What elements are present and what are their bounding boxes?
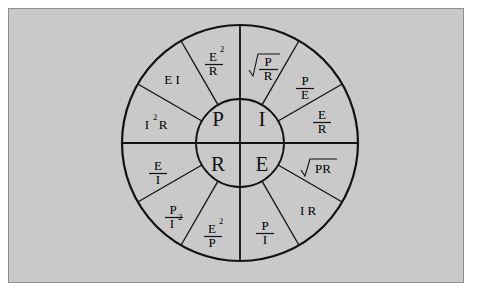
sector-sqrt-p-over-r: P R <box>249 54 280 83</box>
sector-e-over-i: E I <box>149 158 167 187</box>
formula-exponent: 2 <box>153 112 157 122</box>
denominator: I <box>170 216 174 231</box>
numerator: E <box>318 107 326 122</box>
formula-base: I <box>145 117 149 132</box>
numerator: P <box>264 54 271 69</box>
sector-e-over-r: E R <box>313 107 331 136</box>
sector-p-over-i2: P I 2 <box>165 202 183 231</box>
center-label-power: P <box>212 107 224 131</box>
center-label-current: I <box>259 107 266 131</box>
wheel-svg: P I R E P R P E E R <box>0 0 480 297</box>
center-label-voltage: E <box>256 152 269 176</box>
ohms-law-wheel: P I R E P R P E E R <box>0 0 480 297</box>
sector-i2-r: I 2 R <box>145 112 168 132</box>
numerator-exponent: 2 <box>220 44 224 54</box>
numerator: P <box>261 218 268 233</box>
divider-240 <box>138 165 202 202</box>
denominator: I <box>263 232 267 247</box>
denominator: R <box>264 68 273 83</box>
sector-e2-over-r: E 2 R <box>205 44 224 78</box>
center-label-resistance: R <box>211 152 225 176</box>
denominator: R <box>209 63 218 78</box>
divider-150 <box>262 181 299 245</box>
divider-300 <box>138 84 202 121</box>
denominator-exponent: 2 <box>178 212 182 222</box>
formula-text: E I <box>164 72 180 87</box>
divider-60 <box>278 84 342 121</box>
numerator: E <box>154 158 162 173</box>
radicand: PR <box>315 161 331 176</box>
sector-p-over-i: P I <box>256 218 274 247</box>
sector-e2-over-p: E 2 P <box>204 216 223 250</box>
numerator: E <box>208 221 216 236</box>
denominator: E <box>301 87 309 102</box>
numerator: E <box>209 49 217 64</box>
sector-i-r: I R <box>300 203 317 218</box>
denominator: P <box>208 235 215 250</box>
denominator: R <box>318 121 327 136</box>
denominator: I <box>156 172 160 187</box>
formula-text: I R <box>300 203 317 218</box>
divider-120 <box>278 165 342 202</box>
numerator: P <box>301 73 308 88</box>
formula-tail: R <box>159 117 168 132</box>
sector-p-over-e: P E <box>296 73 314 102</box>
numerator-exponent: 2 <box>219 216 223 226</box>
page-canvas: P I R E P R P E E R <box>0 0 480 297</box>
sector-e-i: E I <box>164 72 180 87</box>
sector-sqrt-pr: PR <box>301 159 337 176</box>
numerator: P <box>169 202 176 217</box>
